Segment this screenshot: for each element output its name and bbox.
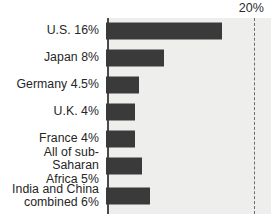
bar-label-sub-saharan-africa: All of sub-Saharan Africa 5%	[0, 146, 103, 186]
bar-us	[106, 23, 222, 40]
bar-india-china	[106, 188, 150, 205]
bar-row-uk: U.K. 4%	[0, 99, 271, 125]
bar-row-japan: Japan 8%	[0, 45, 271, 71]
bar-label-us: U.S. 16%	[0, 24, 103, 37]
bar-label-india-china: India and China combined 6%	[0, 183, 103, 209]
bar-germany	[106, 77, 139, 94]
bar-japan	[106, 50, 164, 67]
bar-sub-saharan-africa	[106, 158, 142, 175]
bar-label-france: France 4%	[0, 132, 103, 145]
bar-track-us	[103, 18, 271, 44]
bar-track-uk	[103, 99, 271, 125]
bar-track-germany	[103, 72, 271, 98]
bar-chart-figure: 20% U.S. 16% Japan 8% Germany 4.5% U.K. …	[0, 0, 271, 224]
bar-track-india-china	[103, 183, 271, 209]
bar-label-germany: Germany 4.5%	[0, 78, 103, 91]
bar-france	[106, 131, 135, 148]
bar-row-sub-saharan-africa: All of sub-Saharan Africa 5%	[0, 153, 271, 179]
bar-label-japan: Japan 8%	[0, 51, 103, 64]
bar-track-france	[103, 126, 271, 152]
bar-row-germany: Germany 4.5%	[0, 72, 271, 98]
bar-row-us: U.S. 16%	[0, 18, 271, 44]
bar-row-india-china: India and China combined 6%	[0, 183, 271, 209]
bar-track-japan	[103, 45, 271, 71]
bar-label-uk: U.K. 4%	[0, 105, 103, 118]
axis-tick-label-20-percent: 20%	[212, 1, 264, 15]
bar-uk	[106, 104, 135, 121]
bar-track-sub-saharan-africa	[103, 153, 271, 179]
